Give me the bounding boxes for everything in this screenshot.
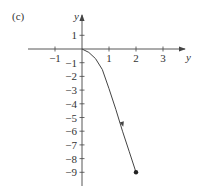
y-tick-label: −6: [65, 125, 77, 137]
x-tick-label: 3: [160, 52, 166, 64]
y-tick-label: −5: [65, 112, 77, 124]
endpoint-marker: [134, 170, 138, 174]
panel-label: (c): [12, 10, 25, 23]
y-tick-label: −7: [65, 139, 77, 151]
solution-curve: [82, 49, 136, 172]
y-tick-label: −3: [65, 84, 77, 96]
x-tick-label: 1: [106, 52, 112, 64]
y-tick-label: −9: [65, 166, 77, 178]
x-axis-label: y: [185, 51, 191, 63]
y-tick-label: −8: [65, 153, 77, 165]
y-tick-label: −2: [65, 70, 77, 82]
x-tick-label: 2: [133, 52, 139, 64]
y-axis-label: y: [73, 10, 79, 22]
chart: (c) y y −1123 1−1−2−3−4−5−6−7−8−9: [0, 0, 200, 193]
y-tick-label: −1: [65, 57, 77, 69]
y-tick-label: 1: [72, 29, 78, 41]
y-tick-label: −4: [65, 98, 77, 110]
x-tick-label: −1: [49, 52, 61, 64]
